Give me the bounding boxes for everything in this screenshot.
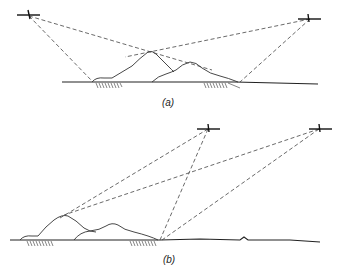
shadow-zone-b-left (27, 241, 53, 246)
sight-line-a2 (29, 16, 212, 70)
sight-line-b1 (60, 129, 208, 218)
sight-line-b4 (162, 129, 319, 240)
panel-a (17, 10, 321, 88)
diagram-canvas (0, 0, 340, 274)
small-mound-a (92, 78, 112, 82)
small-mound-b (20, 236, 38, 240)
caption-panel-a: (a) (162, 97, 174, 108)
shadow-zone-b-right (130, 241, 156, 246)
shadow-zone-a-left (96, 83, 122, 88)
sight-line-b3 (64, 129, 319, 215)
aircraft-icon-a-left (17, 10, 40, 19)
panel-b (10, 124, 332, 246)
caption-panel-b: (b) (163, 254, 175, 265)
ground-line-a (62, 82, 318, 84)
second-hill-b (74, 224, 158, 240)
sight-line-b2 (160, 129, 208, 240)
aircraft-icon-b-left (197, 124, 220, 132)
shadow-zone-a-right (204, 83, 240, 88)
sight-line-a3 (240, 19, 310, 82)
sight-line-a1 (29, 16, 93, 82)
large-hill-b (38, 216, 96, 237)
second-hill-a (152, 62, 238, 82)
